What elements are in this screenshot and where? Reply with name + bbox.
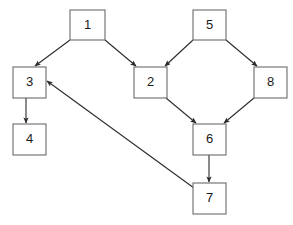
node-2[interactable]: 2 — [134, 67, 167, 98]
edge-7-to-3 — [47, 81, 194, 188]
edge-1-to-2 — [105, 40, 136, 66]
node-label-2: 2 — [147, 74, 154, 89]
node-label-5: 5 — [206, 17, 213, 32]
graph-svg: 12345678 — [0, 0, 293, 225]
edge-1-to-3 — [35, 40, 70, 66]
edge-2-to-6 — [166, 98, 196, 123]
node-7[interactable]: 7 — [193, 183, 226, 214]
diagram-canvas: 12345678 — [0, 0, 293, 225]
node-label-4: 4 — [26, 131, 33, 146]
node-4[interactable]: 4 — [13, 124, 46, 155]
edge-8-to-6 — [224, 98, 254, 123]
nodes-layer: 12345678 — [13, 10, 287, 214]
node-1[interactable]: 1 — [70, 10, 105, 40]
edge-5-to-8 — [226, 40, 257, 66]
node-label-8: 8 — [267, 74, 274, 89]
node-6[interactable]: 6 — [193, 124, 226, 155]
node-8[interactable]: 8 — [254, 67, 287, 98]
node-5[interactable]: 5 — [193, 10, 226, 40]
edge-5-to-2 — [165, 40, 193, 66]
node-label-3: 3 — [26, 74, 33, 89]
node-label-6: 6 — [206, 131, 213, 146]
node-3[interactable]: 3 — [13, 67, 46, 98]
node-label-7: 7 — [206, 190, 213, 205]
edges-layer — [26, 40, 257, 188]
node-label-1: 1 — [84, 17, 91, 32]
